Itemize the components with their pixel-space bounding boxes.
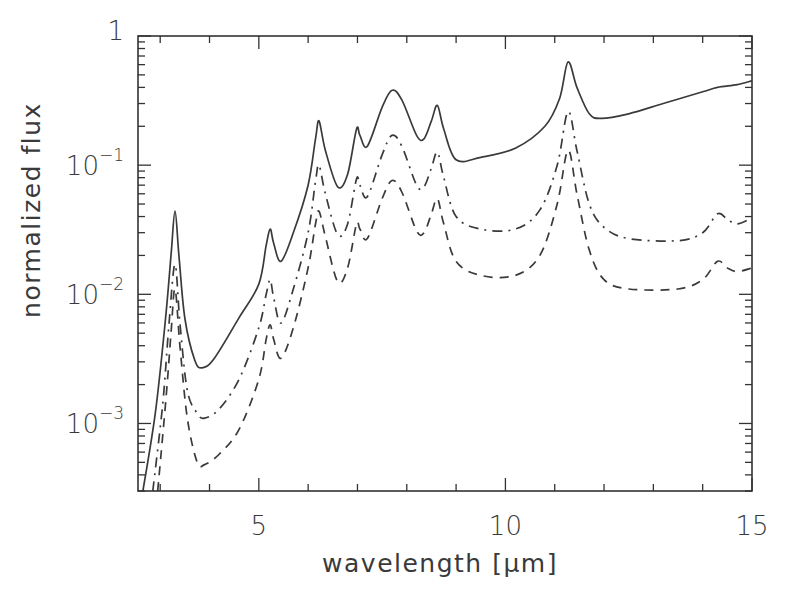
x-tick-label: 10 [489, 511, 522, 541]
spectrum-chart: 51015 110−110−210−3 wavelength [μm] norm… [0, 0, 787, 594]
series-solid-line [143, 62, 752, 491]
x-tick-label: 5 [251, 511, 268, 541]
y-tick-label: 10−2 [66, 274, 124, 310]
series-dashed-line [158, 150, 752, 491]
series-curves [143, 62, 752, 491]
x-axis-label: wavelength [μm] [322, 549, 558, 578]
y-tick-label: 10−3 [66, 403, 124, 439]
y-tick-labels: 110−110−210−3 [66, 16, 124, 439]
series-dash-dot-line [153, 111, 752, 491]
y-axis-label: normalized flux [17, 102, 46, 318]
y-tick-label: 1 [107, 16, 124, 46]
x-tick-label: 15 [735, 511, 768, 541]
x-tick-labels: 51015 [251, 511, 769, 541]
y-tick-label: 10−1 [66, 145, 124, 181]
